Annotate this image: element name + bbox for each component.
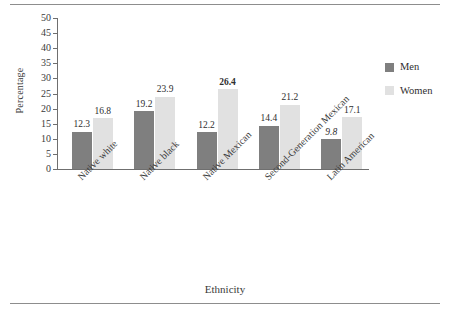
y-tick-mark — [53, 139, 57, 140]
legend-label: Women — [400, 86, 432, 97]
y-tick-label: 35 — [41, 58, 51, 68]
y-tick-label: 10 — [41, 134, 51, 144]
bar-value-label: 26.4 — [219, 78, 236, 88]
y-tick-label: 30 — [41, 73, 51, 83]
y-axis-line — [57, 18, 58, 169]
y-tick-mark — [53, 109, 57, 110]
bar-value-label: 14.4 — [261, 114, 278, 124]
y-axis-title-text: Percentage — [14, 43, 25, 138]
y-tick-label: 20 — [41, 104, 51, 114]
y-tick-mark — [53, 154, 57, 155]
bar-value-label: 17.1 — [344, 106, 361, 116]
top-divider — [10, 4, 440, 5]
y-tick-mark — [53, 33, 57, 34]
chart-legend: MenWomen — [385, 62, 432, 109]
bottom-divider — [10, 303, 440, 304]
y-tick-label: 0 — [46, 164, 51, 174]
y-tick-label: 40 — [41, 43, 51, 53]
y-tick-label: 45 — [41, 28, 51, 38]
legend-item: Men — [385, 62, 432, 73]
y-tick-mark — [53, 94, 57, 95]
y-tick-label: 50 — [41, 13, 51, 23]
legend-item: Women — [385, 86, 432, 97]
y-tick-mark — [53, 48, 57, 49]
bar-value-label: 9.8 — [325, 128, 337, 138]
legend-label: Men — [400, 62, 419, 73]
y-tick-mark — [53, 63, 57, 64]
bar-value-label: 23.9 — [157, 85, 174, 95]
bar-value-label: 19.2 — [136, 100, 153, 110]
bar-value-label: 12.2 — [198, 121, 215, 131]
bar-value-label: 12.3 — [73, 120, 90, 130]
y-tick-label: 5 — [46, 149, 51, 159]
y-tick-mark — [53, 78, 57, 79]
bar-value-label: 21.2 — [282, 93, 299, 103]
y-tick-label: 15 — [41, 119, 51, 129]
y-tick-mark — [53, 124, 57, 125]
plot-area: 05101520253035404550 12.316.819.223.912.… — [57, 18, 369, 169]
bar-value-label: 16.8 — [94, 107, 111, 117]
chart-figure: Percentage 05101520253035404550 12.316.8… — [0, 0, 450, 317]
y-tick-mark — [53, 18, 57, 19]
legend-swatch-icon — [385, 86, 394, 95]
x-axis-title: Ethnicity — [0, 283, 450, 295]
legend-swatch-icon — [385, 63, 394, 72]
y-tick-label: 25 — [41, 89, 51, 99]
y-tick-mark — [53, 169, 57, 170]
